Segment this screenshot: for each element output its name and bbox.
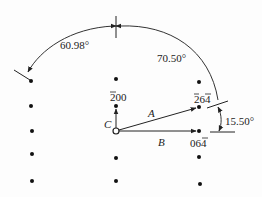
spot-200 [114, 104, 118, 108]
spot [29, 104, 33, 108]
vector-label-a: A [147, 107, 155, 119]
spot [197, 80, 201, 84]
vector-a [119, 108, 196, 130]
spot [30, 152, 34, 156]
spot [114, 77, 118, 81]
angle-label-70-50: 70.50° [157, 52, 186, 64]
vector-label-b: B [158, 136, 165, 148]
spot [197, 155, 201, 159]
angle-label-60-98: 60.98° [60, 39, 89, 51]
spot [30, 179, 34, 183]
tick-left [14, 70, 30, 80]
diagram-canvas: 60.98° 70.50° 15.50° 200 264 064 C A B [0, 0, 262, 197]
spot-264 [197, 105, 201, 109]
index-064: 064 [190, 137, 207, 149]
angle-label-15-50: 15.50° [225, 115, 254, 127]
index-200: 200 [110, 91, 127, 103]
origin-spot [113, 128, 119, 134]
arc-15-50 [218, 107, 221, 131]
vector-label-c: C [104, 118, 112, 130]
spot [30, 129, 34, 133]
spot [114, 179, 118, 183]
spot-064 [197, 129, 201, 133]
diffraction-pattern-diagram: 60.98° 70.50° 15.50° 200 264 064 C A B [0, 0, 262, 197]
spot [114, 156, 118, 160]
spot [198, 182, 202, 186]
index-264: 264 [194, 93, 211, 105]
